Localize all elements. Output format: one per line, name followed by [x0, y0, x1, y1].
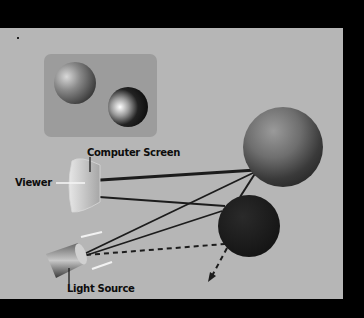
- diagram-canvas: [0, 0, 364, 318]
- inset-render-screen: [44, 54, 157, 137]
- light-source-label: Light Source: [67, 283, 135, 294]
- dark-sphere: [218, 195, 280, 257]
- viewer-label: Viewer: [15, 177, 52, 188]
- large-sphere: [243, 107, 323, 187]
- ray-tracing-diagram: Computer Screen Viewer Light Source: [0, 0, 364, 318]
- speck: [17, 37, 19, 39]
- inset-sphere-gray: [54, 62, 96, 104]
- computer-screen-label: Computer Screen: [87, 147, 180, 158]
- inset-sphere-dark: [108, 87, 148, 127]
